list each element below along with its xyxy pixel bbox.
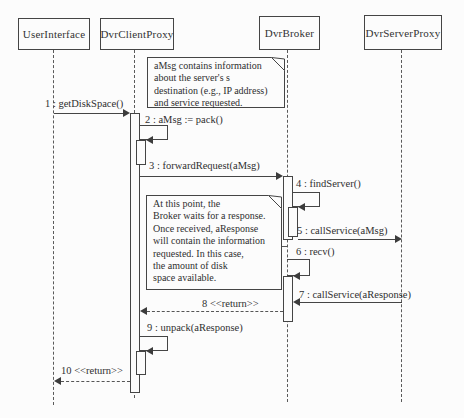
message-8-line (147, 311, 283, 312)
message-7-arrowhead-icon (293, 298, 300, 306)
lifeline-label: DvrBroker (265, 27, 314, 39)
lifeline-dvrserverproxy (401, 50, 402, 402)
message-1-arrowhead-icon (123, 109, 130, 117)
sequence-diagram: UserInterface DvrClientProxy DvrBroker D… (0, 0, 464, 418)
message-2-self-loop (140, 125, 168, 140)
message-7-label: 7 : callService(aResponse) (299, 289, 411, 300)
message-9-label: 9 : unpack(aResponse) (147, 322, 243, 333)
lifeline-head-dvrserverproxy: DvrServerProxy (364, 15, 442, 50)
message-1-line (54, 113, 123, 114)
message-4-arrowhead-icon (298, 203, 305, 211)
message-9-self-loop (140, 336, 168, 351)
message-2-label: 2 : aMsg := pack() (145, 114, 223, 125)
message-4-label: 4 : findServer() (296, 178, 361, 189)
message-10-label: 10 <<return>> (61, 365, 123, 376)
activation-bar-client-unpack (136, 351, 146, 375)
message-3-label: 3 : forwardRequest(aMsg) (149, 160, 260, 171)
message-6-label: 6 : recv() (296, 246, 334, 257)
note-amsg: aMsg contains information about the serv… (147, 57, 285, 108)
lifeline-label: DvrServerProxy (366, 27, 441, 39)
note-anchor-line (282, 246, 288, 247)
note-line: about the server's s (154, 72, 284, 84)
note-fold-icon (268, 195, 282, 209)
message-8-label: 8 <<return>> (202, 298, 259, 309)
message-6-arrowhead-icon (293, 272, 300, 280)
message-7-line (300, 302, 402, 303)
activation-bar-client-pack (136, 140, 146, 165)
lifeline-label: DvrClientProxy (100, 28, 173, 40)
message-5-arrowhead-icon (395, 235, 402, 243)
note-line: requested. In this case, (153, 248, 281, 260)
message-10-arrowhead-icon (54, 377, 61, 385)
note-line: and service requested. (154, 97, 284, 109)
note-line: destination (e.g., IP address) (154, 85, 284, 97)
message-9-arrowhead-icon (146, 347, 153, 355)
message-8-arrowhead-icon (140, 307, 147, 315)
activation-bar-broker-recv (283, 276, 293, 322)
note-line: At this point, the (153, 198, 281, 210)
message-3-arrowhead-icon (276, 172, 283, 180)
note-line: Broker waits for a response. (153, 210, 281, 222)
note-line: will contain the information (153, 235, 281, 247)
note-line: the amount of disk (153, 260, 281, 272)
message-3-line (140, 176, 276, 177)
lifeline-head-userinterface: UserInterface (18, 18, 90, 50)
message-2-arrowhead-icon (146, 136, 153, 144)
message-5-line (298, 239, 395, 240)
lifeline-head-dvrbroker: DvrBroker (259, 16, 320, 50)
note-fold-icon (271, 57, 285, 71)
note-line: Once received, aResponse (153, 223, 281, 235)
note-broker-wait: At this point, the Broker waits for a re… (146, 195, 282, 290)
note-line: aMsg contains information (154, 60, 284, 72)
lifeline-label: UserInterface (23, 28, 85, 40)
message-5-label: 5 : callService(aMsg) (297, 225, 387, 236)
note-line: space available. (153, 272, 281, 284)
message-1-label: 1 : getDiskSpace() (45, 98, 123, 109)
message-10-line (61, 381, 130, 382)
lifeline-head-dvrclientproxy: DvrClientProxy (100, 18, 174, 50)
